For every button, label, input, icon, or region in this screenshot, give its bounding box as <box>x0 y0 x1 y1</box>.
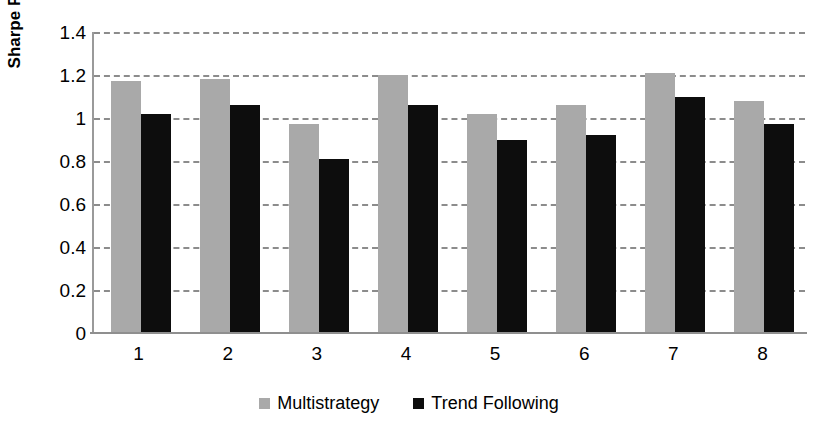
legend-label: Multistrategy <box>277 394 379 412</box>
bar-group <box>200 32 260 333</box>
plot-area <box>92 32 805 333</box>
bar-group <box>467 32 527 333</box>
bar <box>645 73 675 333</box>
x-axis-tick-label: 3 <box>312 341 323 367</box>
x-axis-line <box>90 332 807 334</box>
y-axis-tick-label: 0.4 <box>36 238 86 257</box>
bar-group <box>111 32 171 333</box>
gray-square-swatch <box>259 398 270 409</box>
black-square-swatch <box>413 398 424 409</box>
y-axis-tick-label: 0.8 <box>36 152 86 171</box>
bar <box>378 75 408 333</box>
x-axis-tick-labels: 12345678 <box>92 341 805 371</box>
bar <box>556 105 586 333</box>
bar <box>734 101 764 333</box>
bar-chart: Sharpe Ratio 00.20.40.60.811.21.4 123456… <box>0 0 818 443</box>
chart-legend: MultistrategyTrend Following <box>0 388 818 418</box>
bar <box>111 81 141 333</box>
bar-group <box>378 32 438 333</box>
x-axis-tick-label: 7 <box>668 341 679 367</box>
bar-group <box>734 32 794 333</box>
bar-group <box>645 32 705 333</box>
bar <box>675 97 705 334</box>
y-axis-tick-label: 1.4 <box>36 23 86 42</box>
bar-group <box>289 32 349 333</box>
x-axis-tick-label: 4 <box>401 341 412 367</box>
x-axis-tick-label: 5 <box>490 341 501 367</box>
y-axis-tick-label: 0.2 <box>36 281 86 300</box>
bar <box>408 105 438 333</box>
bar <box>141 114 171 333</box>
bar <box>586 135 616 333</box>
legend-label: Trend Following <box>431 394 558 412</box>
y-axis-title: Sharpe Ratio <box>2 0 28 116</box>
bar-group <box>556 32 616 333</box>
legend-entry: Trend Following <box>413 394 558 412</box>
page-edge <box>0 436 818 443</box>
bars-layer <box>94 32 805 333</box>
bar <box>764 124 794 333</box>
x-axis-tick-label: 6 <box>579 341 590 367</box>
bar <box>467 114 497 333</box>
y-axis-tick-label: 0.6 <box>36 195 86 214</box>
bar <box>289 124 319 333</box>
bar <box>319 159 349 333</box>
x-axis-tick-label: 1 <box>133 341 144 367</box>
x-axis-tick-label: 2 <box>222 341 233 367</box>
bar <box>200 79 230 333</box>
y-axis-tick-label: 1.2 <box>36 66 86 85</box>
legend-entry: Multistrategy <box>259 394 379 412</box>
y-axis-tick-label: 1 <box>36 109 86 128</box>
x-axis-tick-label: 8 <box>757 341 768 367</box>
y-axis-tick-labels: 00.20.40.60.811.21.4 <box>36 0 86 443</box>
bar <box>497 140 527 334</box>
bar <box>230 105 260 333</box>
y-axis-tick-label: 0 <box>36 324 86 343</box>
